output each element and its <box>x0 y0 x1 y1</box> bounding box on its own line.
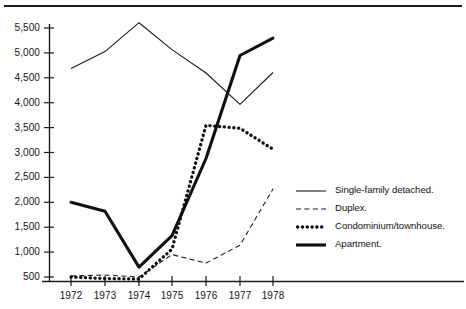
legend-label: Condominium/townhouse. <box>335 220 445 231</box>
legend-item-single-family-detached: Single-family detached. <box>296 180 464 198</box>
y-tick-label: 1,500 <box>0 222 40 232</box>
x-tick-label: 1978 <box>253 291 293 301</box>
y-tick-label: 2,500 <box>0 172 40 182</box>
legend-item-duplex: Duplex. <box>296 198 464 216</box>
legend-item-apartment: Apartment. <box>296 234 464 252</box>
y-tick-label: 3,000 <box>0 148 40 158</box>
y-tick-label: 4,500 <box>0 73 40 83</box>
y-tick-label: 5,000 <box>0 48 40 58</box>
legend-swatch-dashed-icon <box>296 201 326 213</box>
y-tick-label: 5,500 <box>0 23 40 33</box>
legend-label: Single-family detached. <box>335 184 434 195</box>
series-line-condominium-townhouse <box>71 125 273 279</box>
chart-figure: 5,500 5,000 4,500 4,000 3,500 3,000 2,50… <box>0 0 466 309</box>
series-line-apartment <box>71 38 273 267</box>
series-line-single-family-detached <box>71 23 273 105</box>
chart-legend: Single-family detached. Duplex. Condomin… <box>296 180 464 252</box>
y-tick-label: 500 <box>0 272 40 282</box>
y-tick-label: 2,000 <box>0 197 40 207</box>
legend-item-condominium-townhouse: Condominium/townhouse. <box>296 216 464 234</box>
y-tick-label: 3,500 <box>0 123 40 133</box>
legend-swatch-thin-solid-icon <box>296 183 326 195</box>
y-tick-label: 1,000 <box>0 247 40 257</box>
y-tick-label: 4,000 <box>0 98 40 108</box>
legend-swatch-thick-solid-icon <box>296 237 326 249</box>
legend-swatch-dotted-icon <box>296 219 326 231</box>
line-chart-plot <box>0 0 466 309</box>
legend-label: Duplex. <box>335 202 367 213</box>
legend-label: Apartment. <box>335 238 381 249</box>
